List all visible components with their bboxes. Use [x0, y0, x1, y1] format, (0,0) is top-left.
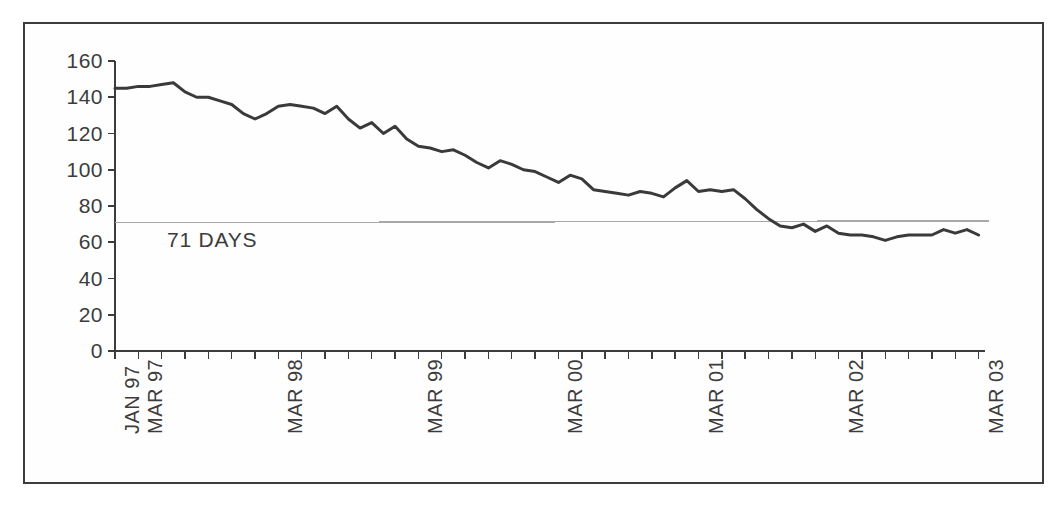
y-axis-tick-label: 120 [47, 123, 103, 144]
x-axis-tick-label: MAR 01 [706, 359, 726, 434]
y-axis-tick-label: 0 [47, 340, 103, 361]
x-axis-tick-label: MAR 99 [425, 359, 445, 434]
x-axis-tick-label: JAN 97 [122, 365, 142, 434]
x-axis-tick-label: MAR 03 [986, 359, 1006, 434]
y-axis-tick-label: 140 [47, 86, 103, 107]
y-axis-tick-label: 60 [47, 231, 103, 252]
data-series-days [115, 83, 979, 241]
y-axis-tick-label: 20 [47, 304, 103, 325]
chart-axes [108, 61, 985, 359]
x-axis-tick-label: MAR 98 [285, 359, 305, 434]
series-line-days [115, 83, 979, 241]
y-axis-tick-label: 40 [47, 268, 103, 289]
reference-line-label: 71 DAYS [167, 228, 257, 252]
x-axis-tick-label: MAR 00 [565, 359, 585, 434]
x-axis-tick-label: MAR 97 [145, 359, 165, 434]
y-axis-tick-label: 160 [47, 50, 103, 71]
x-axis-tick-label: MAR 02 [846, 359, 866, 434]
reference-line-71-days [115, 221, 989, 223]
reference-line [115, 221, 989, 223]
y-axis-tick-label: 100 [47, 159, 103, 180]
chart-figure: 020406080100120140160 JAN 97MAR 97MAR 98… [0, 0, 1063, 505]
y-axis-tick-label: 80 [47, 195, 103, 216]
